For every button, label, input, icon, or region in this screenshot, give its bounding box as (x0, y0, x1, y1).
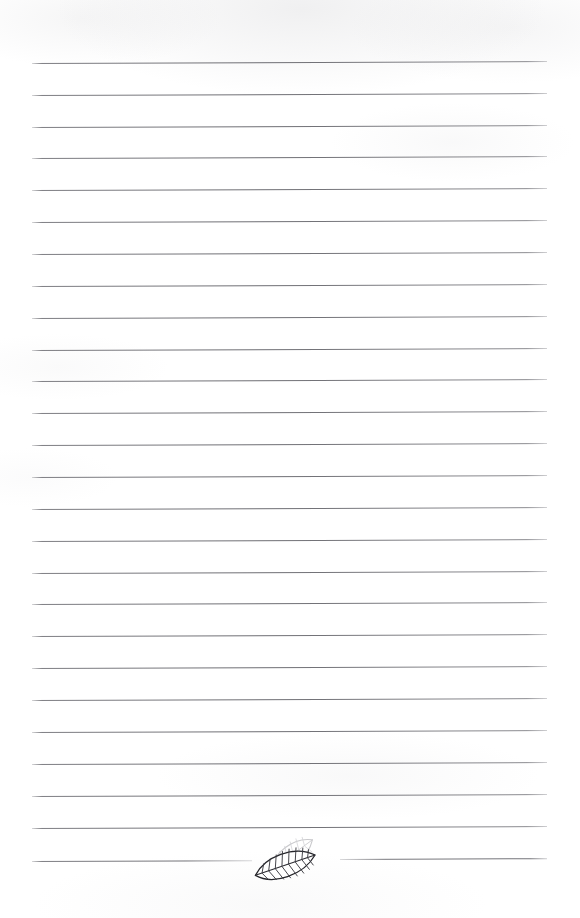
rule-line (32, 411, 547, 414)
rule-line (32, 571, 547, 574)
rule-line (32, 252, 547, 255)
rule-line (32, 762, 547, 765)
rule-line (32, 826, 547, 829)
rule-line (32, 93, 547, 96)
rule-line (32, 348, 547, 351)
rule-line (32, 443, 547, 446)
rule-line (32, 602, 547, 605)
rule-line (32, 634, 547, 637)
rule-line (32, 125, 547, 128)
rule-line (32, 794, 547, 797)
rule-line (32, 316, 547, 319)
leaf-ornament (248, 834, 328, 886)
rule-line (32, 284, 547, 287)
rule-line (32, 156, 547, 159)
rule-line (32, 730, 547, 733)
rule-line (32, 475, 547, 478)
ruled-lines-group (0, 0, 580, 918)
rule-line (32, 379, 547, 382)
notepaper-page (0, 0, 580, 918)
rule-line-left (32, 860, 252, 862)
rule-line (32, 220, 547, 223)
rule-line (32, 61, 547, 64)
rule-line (32, 698, 547, 701)
rule-line-right (340, 858, 547, 860)
rule-line (32, 188, 547, 191)
rule-line (32, 539, 547, 542)
rule-line (32, 666, 547, 669)
rule-line (32, 507, 547, 510)
